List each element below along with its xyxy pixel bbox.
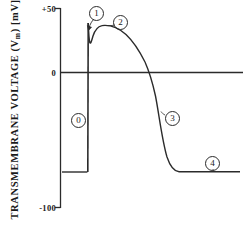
phase-marker-1[interactable]: 1 xyxy=(89,6,104,21)
axis-group xyxy=(55,8,243,208)
trace-phase-2-plateau xyxy=(102,25,145,62)
phase-marker-4[interactable]: 4 xyxy=(205,156,220,171)
phase-3-leader xyxy=(161,112,165,116)
plot-canvas xyxy=(0,0,244,226)
phase-3-leader-line xyxy=(161,112,165,116)
action-potential-trace xyxy=(62,23,240,172)
phase-marker-0[interactable]: 0 xyxy=(71,113,86,128)
cardiac-action-potential-figure: TRANSMEMBRANE VOLTAGE (Vm) [mV] +50 0 -1… xyxy=(0,0,244,226)
trace-phase-1-notch xyxy=(88,23,102,43)
phase-marker-2[interactable]: 2 xyxy=(113,15,128,30)
phase-marker-3[interactable]: 3 xyxy=(165,111,180,126)
